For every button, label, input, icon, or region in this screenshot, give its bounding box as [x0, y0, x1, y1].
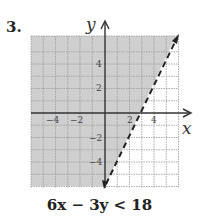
x-tick-neg4: −4 — [46, 115, 60, 125]
x-axis-label: x — [182, 118, 192, 138]
y-axis-label: y — [85, 14, 96, 34]
x-tick-2: 2 — [127, 115, 133, 125]
y-tick-neg4: −4 — [89, 157, 103, 167]
inequality-caption: 6x − 3y < 18 — [0, 196, 199, 214]
y-tick-neg2: −2 — [89, 133, 102, 143]
inequality-graph: −4 −2 2 4 4 2 −2 −4 y x — [0, 0, 199, 220]
y-tick-2: 2 — [96, 83, 102, 93]
x-tick-neg2: −2 — [70, 115, 83, 125]
x-tick-4: 4 — [151, 115, 157, 125]
y-tick-4: 4 — [96, 59, 102, 69]
